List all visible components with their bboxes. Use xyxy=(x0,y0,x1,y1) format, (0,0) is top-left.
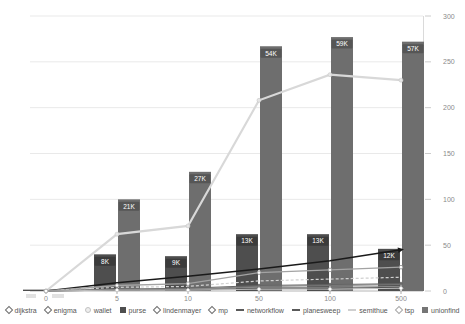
legend-label: enigma xyxy=(54,307,77,314)
x-tick-label: 10 xyxy=(184,295,192,302)
bar-label: 27K xyxy=(194,175,206,182)
y-tick-label: 200 xyxy=(443,104,455,111)
legend-item-mp[interactable]: mp xyxy=(209,307,228,314)
legend-item-unionfind[interactable]: unionfind xyxy=(422,307,459,314)
bar-label: 12K xyxy=(383,252,395,259)
point-planesweep[interactable] xyxy=(257,271,261,275)
bar-unionfind-500[interactable] xyxy=(402,42,424,291)
bar-label: 13K xyxy=(312,237,324,244)
point-planesweep[interactable] xyxy=(399,265,403,269)
point-planesweep[interactable] xyxy=(115,284,119,288)
legend-label: unionfind xyxy=(431,307,459,314)
square-gray-icon xyxy=(422,307,428,313)
legend-item-dijkstra[interactable]: dijkstra xyxy=(6,307,37,314)
diamond-open-icon xyxy=(394,306,402,314)
diamond-icon xyxy=(153,306,161,314)
diamond-icon xyxy=(208,306,216,314)
bar-label: 54K xyxy=(265,50,277,57)
legend-label: tsp xyxy=(405,307,414,314)
y-tick-label: 150 xyxy=(443,150,455,157)
point-wallet[interactable] xyxy=(328,73,332,77)
diamond-icon xyxy=(43,306,51,314)
point-wallet[interactable] xyxy=(257,98,261,102)
bar-label: 57K xyxy=(407,45,419,52)
faint-bar-label xyxy=(26,294,36,298)
circle-icon xyxy=(85,307,91,313)
legend-item-wallet[interactable]: wallet xyxy=(85,307,112,314)
dash-icon xyxy=(236,309,244,311)
y-tick-label: 300 xyxy=(443,13,455,20)
dash-icon xyxy=(292,309,300,311)
legend-label: planesweep xyxy=(303,307,340,314)
chart-legend: dijkstraenigmawalletpurselindenmayermpne… xyxy=(0,302,465,318)
legend-label: lindenmayer xyxy=(163,307,201,314)
legend-item-purse[interactable]: purse xyxy=(120,307,147,314)
legend-item-networkflow[interactable]: networkflow xyxy=(236,307,284,314)
bar-label: 13K xyxy=(241,237,253,244)
point-wallet[interactable] xyxy=(115,232,119,236)
legend-item-tsp[interactable]: tsp xyxy=(396,307,414,314)
bar-label: 59K xyxy=(336,40,348,47)
y-tick-label: 100 xyxy=(443,196,455,203)
bar-label: 8K xyxy=(101,258,110,265)
point-planesweep[interactable] xyxy=(186,282,190,286)
y-tick-label: 250 xyxy=(443,58,455,65)
point-wallet[interactable] xyxy=(399,78,403,82)
x-tick-label: 100 xyxy=(324,295,336,302)
x-tick-label: 500 xyxy=(395,295,407,302)
square-dark-icon xyxy=(120,307,126,313)
dash-light-icon xyxy=(348,309,356,311)
point-planesweep[interactable] xyxy=(328,268,332,272)
legend-item-planesweep[interactable]: planesweep xyxy=(292,307,340,314)
legend-label: wallet xyxy=(94,307,112,314)
x-tick-label: 0 xyxy=(44,295,48,302)
legend-label: dijkstra xyxy=(15,307,37,314)
bar-unionfind-5[interactable] xyxy=(118,199,140,291)
diamond-icon xyxy=(4,306,12,314)
legend-label: networkflow xyxy=(247,307,284,314)
point-wallet[interactable] xyxy=(186,224,190,228)
y-tick-label: 0 xyxy=(443,288,447,295)
legend-item-lindenmayer[interactable]: lindenmayer xyxy=(154,307,201,314)
faint-bar-label xyxy=(52,294,64,298)
bar-unionfind-50[interactable] xyxy=(260,46,282,291)
x-tick-label: 50 xyxy=(255,295,263,302)
legend-label: semithue xyxy=(359,307,387,314)
legend-item-enigma[interactable]: enigma xyxy=(45,307,77,314)
chart-screenshot: 3002502001501005000510501005008K9K13K13K… xyxy=(0,0,465,324)
bar-label: 21K xyxy=(123,203,135,210)
legend-label: purse xyxy=(129,307,147,314)
bar-label: 9K xyxy=(172,259,181,266)
chart-canvas: 3002502001501005000510501005008K9K13K13K… xyxy=(0,0,465,324)
legend-label: mp xyxy=(218,307,228,314)
legend-item-semithue[interactable]: semithue xyxy=(348,307,387,314)
y-tick-label: 50 xyxy=(443,242,451,249)
bar-purse-0[interactable] xyxy=(23,290,45,291)
x-tick-label: 5 xyxy=(115,295,119,302)
